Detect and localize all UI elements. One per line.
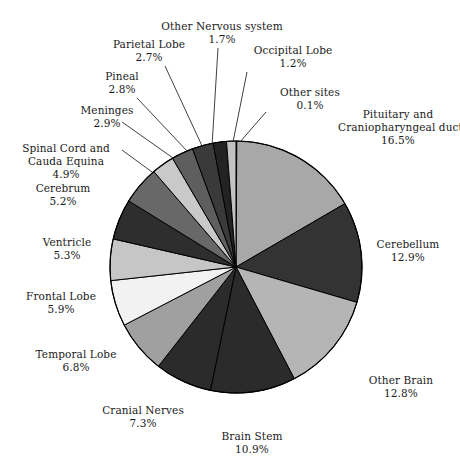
- pie-label-temporal-lobe-line2: 6.8%: [18, 361, 134, 374]
- pie-label-pituitary: Pituitary andCraniopharyngeal duct16.5%: [338, 108, 458, 147]
- pie-label-cerebellum: Cerebellum12.9%: [358, 238, 458, 264]
- pie-label-meninges-line2: 2.9%: [57, 117, 157, 130]
- pie-label-pineal-line2: 2.8%: [76, 83, 168, 96]
- pie-label-occipital-lobe-line1: Occipital Lobe: [238, 44, 348, 57]
- pie-label-other-nervous-system-line1: Other Nervous system: [152, 20, 292, 33]
- pie-label-parietal-lobe-line1: Parietal Lobe: [94, 38, 204, 51]
- pie-label-cranial-nerves: Cranial Nerves7.3%: [82, 404, 204, 430]
- leader-line-other-nervous-system: [212, 48, 218, 146]
- pie-label-spinal-cord-line1: Spinal Cord and: [8, 142, 124, 155]
- pie-label-other-brain: Other Brain12.8%: [348, 374, 454, 400]
- pie-label-parietal-lobe: Parietal Lobe2.7%: [94, 38, 204, 64]
- pie-label-temporal-lobe-line1: Temporal Lobe: [18, 348, 134, 361]
- pie-label-occipital-lobe-line2: 1.2%: [238, 57, 348, 70]
- pie-label-other-brain-line2: 12.8%: [348, 387, 454, 400]
- pie-label-spinal-cord-line3: 4.9%: [8, 168, 124, 181]
- pie-label-brain-stem-line1: Brain Stem: [196, 430, 308, 443]
- pie-label-occipital-lobe: Occipital Lobe1.2%: [238, 44, 348, 70]
- pie-label-ventricle-line2: 5.3%: [18, 249, 116, 262]
- pie-label-pineal: Pineal2.8%: [76, 70, 168, 96]
- pie-label-brain-stem: Brain Stem10.9%: [196, 430, 308, 456]
- leader-line-other-sites: [240, 112, 266, 142]
- leader-line-parietal-lobe: [165, 66, 203, 148]
- pie-label-ventricle-line1: Ventricle: [18, 236, 116, 249]
- pie-label-cerebellum-line2: 12.9%: [358, 251, 458, 264]
- leader-line-spinal-cord: [122, 150, 152, 172]
- pie-label-meninges: Meninges2.9%: [57, 104, 157, 130]
- pie-label-cerebrum-line1: Cerebrum: [10, 182, 116, 195]
- pie-label-parietal-lobe-line2: 2.7%: [94, 51, 204, 64]
- pie-label-meninges-line1: Meninges: [57, 104, 157, 117]
- pie-slice-group: [110, 141, 362, 393]
- pie-label-spinal-cord-line2: Cauda Equina: [8, 155, 124, 168]
- pie-label-brain-stem-line2: 10.9%: [196, 443, 308, 456]
- pie-label-cerebrum: Cerebrum5.2%: [10, 182, 116, 208]
- pie-label-pineal-line1: Pineal: [76, 70, 168, 83]
- pie-label-frontal-lobe: Frontal Lobe5.9%: [8, 290, 114, 316]
- pie-label-cerebrum-line2: 5.2%: [10, 195, 116, 208]
- pie-label-spinal-cord: Spinal Cord andCauda Equina4.9%: [8, 142, 124, 181]
- pie-label-temporal-lobe: Temporal Lobe6.8%: [18, 348, 134, 374]
- pie-label-pituitary-line3: 16.5%: [338, 134, 458, 147]
- pie-label-other-brain-line1: Other Brain: [348, 374, 454, 387]
- pie-chart-figure: Other Nervous system1.7%Parietal Lobe2.7…: [0, 0, 460, 470]
- leader-line-occipital-lobe: [233, 72, 247, 142]
- pie-label-pituitary-line2: Craniopharyngeal duct: [338, 121, 458, 134]
- pie-label-cranial-nerves-line2: 7.3%: [82, 417, 204, 430]
- pie-label-other-sites-line1: Other sites: [255, 86, 365, 99]
- pie-label-cranial-nerves-line1: Cranial Nerves: [82, 404, 204, 417]
- pie-label-frontal-lobe-line2: 5.9%: [8, 303, 114, 316]
- pie-label-frontal-lobe-line1: Frontal Lobe: [8, 290, 114, 303]
- pie-label-cerebellum-line1: Cerebellum: [358, 238, 458, 251]
- pie-label-ventricle: Ventricle5.3%: [18, 236, 116, 262]
- pie-label-pituitary-line1: Pituitary and: [338, 108, 458, 121]
